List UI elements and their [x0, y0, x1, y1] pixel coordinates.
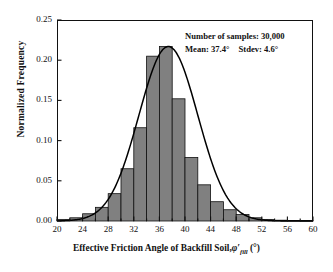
sample-count-line: Number of samples: 30,000 — [185, 30, 287, 43]
x-axis-title-text: Effective Friction Angle of Backfill Soi… — [73, 243, 232, 253]
x-axis-title: Effective Friction Angle of Backfill Soi… — [0, 243, 333, 255]
stdev-value: Stdev: 4.6° — [239, 44, 279, 54]
histogram-figure: 0.000.050.100.150.200.25 Normalized Freq… — [0, 0, 333, 272]
mean-stdev-line: Mean: 37.4°Stdev: 4.6° — [185, 43, 287, 56]
mean-value: Mean: 37.4° — [185, 44, 230, 54]
x-axis-title-subscript: fill — [240, 248, 248, 255]
x-axis-title-unit: (°) — [250, 243, 260, 253]
x-tick-label: 60 — [293, 224, 333, 234]
phi-prime-symbol: φ′ — [232, 243, 240, 253]
statistics-annotation: Number of samples: 30,000 Mean: 37.4°Std… — [185, 30, 287, 56]
